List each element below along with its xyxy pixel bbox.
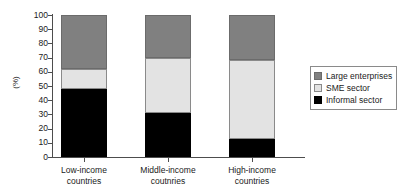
y-axis-tick-mark <box>48 100 52 101</box>
y-axis-tick-mark <box>48 129 52 130</box>
y-axis-tick-mark <box>48 43 52 44</box>
bar-group <box>145 0 191 192</box>
y-axis-tick-label: 70 <box>22 53 48 62</box>
y-axis-tick-label: 20 <box>22 124 48 133</box>
y-axis-tick-label: 40 <box>22 96 48 105</box>
y-axis-tick-mark <box>48 72 52 73</box>
legend-item: Informal sector <box>314 94 392 106</box>
chart-legend: Large enterprisesSME sectorInformal sect… <box>310 66 397 110</box>
x-axis-tick-label-line: coutnries <box>120 176 216 187</box>
legend-swatch-informal <box>314 96 322 104</box>
y-axis-tick-labels: 0102030405060708090100 <box>22 10 48 162</box>
legend-item: Large enterprises <box>314 70 392 82</box>
y-axis-line <box>52 14 53 158</box>
y-axis-title: (%) <box>11 76 20 90</box>
bar-segment <box>229 60 275 138</box>
y-axis-tick-mark <box>48 114 52 115</box>
bar-segment <box>229 15 275 60</box>
y-axis-tick-label: 30 <box>22 110 48 119</box>
x-axis-tick-mark <box>252 158 253 162</box>
y-axis-tick-label: 0 <box>22 153 48 162</box>
y-axis-tick-label: 10 <box>22 138 48 147</box>
bar-segment <box>61 69 107 89</box>
legend-item-label: Large enterprises <box>326 71 392 81</box>
bar-segment <box>145 15 191 58</box>
y-axis-tick-mark <box>48 157 52 158</box>
y-axis-tick-mark <box>48 143 52 144</box>
legend-item-label: SME sector <box>326 83 370 93</box>
x-axis-tick-label: High-incomecountries <box>204 165 300 187</box>
y-axis-tick-label: 100 <box>22 11 48 20</box>
bar-group <box>229 0 275 192</box>
x-axis-tick-mark <box>168 158 169 162</box>
legend-swatch-sme <box>314 84 322 92</box>
legend-swatch-large <box>314 72 322 80</box>
bar-segment <box>229 139 275 157</box>
bar-segment <box>61 15 107 69</box>
legend-item: SME sector <box>314 82 392 94</box>
x-axis-tick-label: Middle-incomecoutnries <box>120 165 216 187</box>
y-axis-tick-label: 80 <box>22 39 48 48</box>
x-axis-tick-label-line: countries <box>36 176 132 187</box>
bar-group <box>61 0 107 192</box>
x-axis-tick-label-line: High-income <box>204 165 300 176</box>
x-axis-tick-label-line: Low-income <box>36 165 132 176</box>
bar-segment <box>61 89 107 157</box>
y-axis-tick-label: 60 <box>22 67 48 76</box>
stacked-bar-chart: (%) 0102030405060708090100 Low-incomecou… <box>0 0 413 192</box>
x-axis-tick-label-line: Middle-income <box>120 165 216 176</box>
bar-segment <box>145 113 191 157</box>
x-axis-tick-label: Low-incomecountries <box>36 165 132 187</box>
bar-segment <box>145 58 191 113</box>
legend-item-label: Informal sector <box>326 95 382 105</box>
y-axis-tick-mark <box>48 58 52 59</box>
x-axis-tick-mark <box>84 158 85 162</box>
y-axis-tick-label: 50 <box>22 82 48 91</box>
y-axis-tick-mark <box>48 29 52 30</box>
x-axis-tick-label-line: countries <box>204 176 300 187</box>
y-axis-tick-mark <box>48 15 52 16</box>
y-axis-tick-mark <box>48 86 52 87</box>
y-axis-tick-label: 90 <box>22 25 48 34</box>
